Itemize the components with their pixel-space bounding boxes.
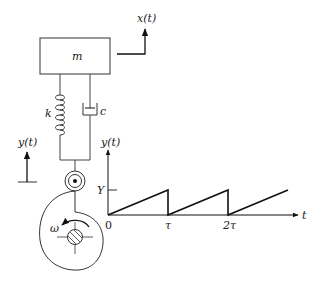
mass-label: m (72, 50, 82, 63)
y-axis-label: y(t) (100, 136, 120, 149)
tau-label: τ (165, 219, 172, 232)
roller-follower (65, 171, 85, 191)
mass-block: m (40, 38, 110, 74)
diagram-canvas: m x(t) k c y(t) (0, 0, 313, 284)
base-displacement-label: y(t) (17, 136, 37, 149)
cam: ω (40, 191, 104, 270)
mass-displacement-label: x(t) (137, 12, 156, 25)
rotation-arrow-icon (62, 220, 89, 227)
origin-label: 0 (105, 219, 112, 232)
x-axis-label: t (302, 209, 307, 222)
spring: k (45, 74, 65, 160)
sawtooth-chart: y(t) t Y 0 τ 2τ (97, 136, 307, 232)
damper-label: c (100, 105, 106, 118)
sawtooth-series (108, 190, 288, 215)
y-tick-label: Y (97, 184, 106, 197)
angular-velocity-label: ω (50, 222, 59, 235)
base-displacement-arrow: y(t) (17, 136, 37, 182)
two-tau-label: 2τ (222, 219, 237, 232)
spring-label: k (45, 107, 52, 120)
follower-link (60, 160, 90, 171)
mass-displacement-arrow: x(t) (117, 12, 156, 54)
